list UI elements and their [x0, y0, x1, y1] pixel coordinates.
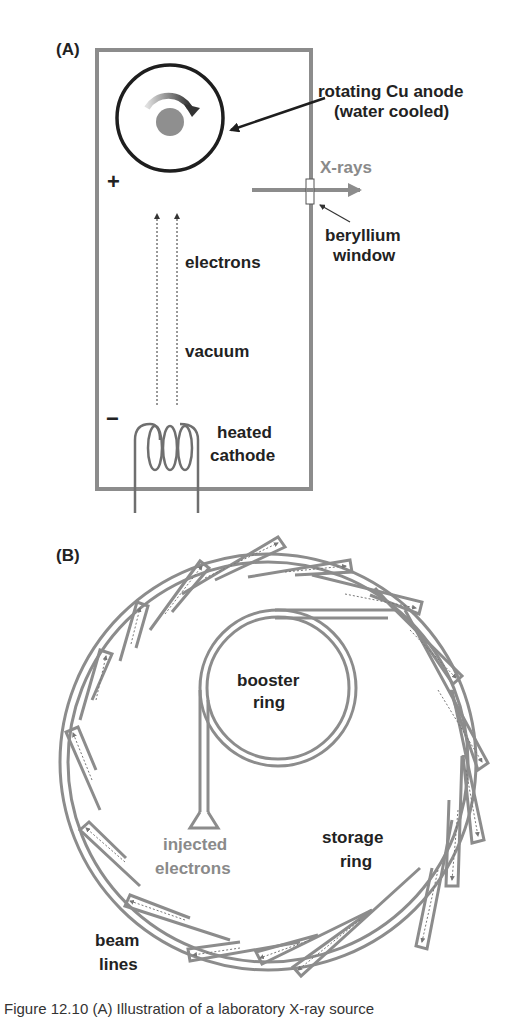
cathode-label-line2: cathode [210, 446, 275, 466]
window-pointer-arrow [320, 205, 350, 222]
anode-label-line1: rotating Cu anode [318, 82, 463, 102]
xrays-label: X-rays [320, 158, 372, 178]
electron-paths [157, 214, 177, 405]
injected-electrons-label-line1: injected [163, 835, 227, 855]
figure-caption: Figure 12.10 (A) Illustration of a labor… [4, 1000, 374, 1017]
minus-terminal-sign: − [106, 409, 119, 429]
booster-ring-label-line2: ring [253, 693, 285, 713]
diagram-canvas [0, 0, 516, 1018]
window-label-line2: window [333, 246, 395, 266]
beam-lines-label-line1: beam [95, 931, 139, 951]
storage-ring-label-line2: ring [340, 852, 372, 872]
cathode-label-line1: heated [217, 423, 272, 443]
storage-ring-label-line1: storage [322, 828, 383, 848]
booster-ring-label-line1: booster [237, 671, 299, 691]
injected-electrons-label-line2: electrons [155, 859, 231, 879]
synchrotron-layout [60, 537, 488, 976]
anode-label-line2: (water cooled) [334, 102, 449, 122]
panel-b-tag: (B) [56, 546, 80, 566]
vacuum-label: vacuum [185, 342, 249, 362]
heated-cathode-coil [135, 424, 198, 513]
beam-lines-label-line2: lines [99, 955, 138, 975]
rotation-arrow-icon [147, 96, 190, 108]
window-label-line1: beryllium [325, 226, 401, 246]
plus-terminal-sign: + [107, 172, 120, 192]
rotating-anode [117, 65, 223, 171]
electrons-label: electrons [185, 253, 261, 273]
beam-lines [66, 537, 488, 976]
